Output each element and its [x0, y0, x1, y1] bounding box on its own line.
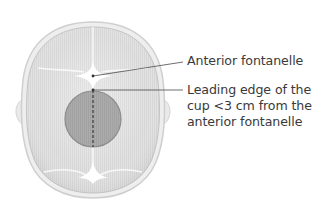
label-leading-edge: Leading edge of the cup <3 cm from the a…	[187, 82, 312, 130]
label-leading-edge-line1: Leading edge of the	[187, 82, 312, 98]
label-leading-edge-line3: anterior fontanelle	[187, 114, 312, 130]
label-leading-edge-line2: cup <3 cm from the	[187, 98, 312, 114]
label-anterior-fontanelle: Anterior fontanelle	[187, 53, 303, 69]
vacuum-cup	[65, 91, 121, 147]
